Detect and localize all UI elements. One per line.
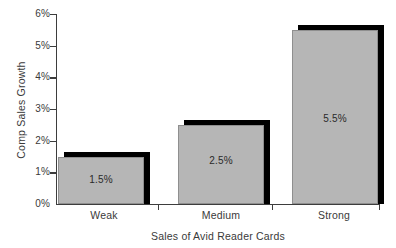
bar-value-label-weak: 1.5% xyxy=(58,174,144,185)
y-tick-6: 6% xyxy=(26,9,50,19)
y-tick-label-6: 6% xyxy=(26,9,50,19)
y-tick-label-5: 5% xyxy=(26,41,50,51)
y-tick-label-0: 0% xyxy=(26,199,50,209)
x-tick-mark-2 xyxy=(272,205,273,210)
y-tick-1: 1% xyxy=(26,167,50,177)
y-tick-label-4: 4% xyxy=(26,72,50,82)
x-category-label-strong: Strong xyxy=(288,209,380,222)
x-axis-line xyxy=(56,204,380,205)
x-category-label-medium: Medium xyxy=(172,209,270,222)
y-tick-4: 4% xyxy=(26,72,50,82)
y-tick-5: 5% xyxy=(26,41,50,51)
y-tick-0: 0% xyxy=(26,199,50,209)
y-tick-label-3: 3% xyxy=(26,104,50,114)
y-tick-label-1: 1% xyxy=(26,167,50,177)
x-axis-title: Sales of Avid Reader Cards xyxy=(56,230,380,243)
bar-value-label-medium: 2.5% xyxy=(178,155,264,166)
x-tick-mark-1 xyxy=(158,205,159,210)
bar-chart: Comp Sales Growth 6% 5% 4% 3% 2% 1% 0% 1… xyxy=(0,0,396,248)
y-tick-3: 3% xyxy=(26,104,50,114)
x-category-label-weak: Weak xyxy=(58,209,150,222)
y-tick-label-2: 2% xyxy=(26,136,50,146)
bar-value-label-strong: 5.5% xyxy=(292,113,378,124)
y-tick-2: 2% xyxy=(26,136,50,146)
